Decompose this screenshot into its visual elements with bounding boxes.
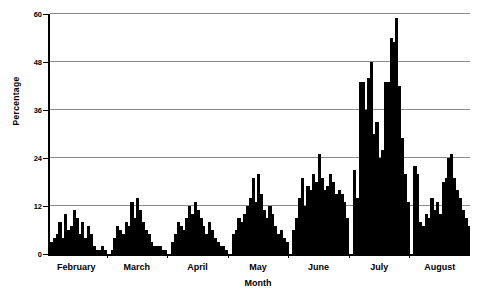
month-label: July — [370, 262, 388, 272]
month-label: April — [187, 262, 208, 272]
month-label: May — [249, 262, 267, 272]
bar-chart: Percentage Month 01224364860 FebruaryMar… — [0, 0, 479, 296]
bar — [346, 218, 349, 254]
bar — [285, 242, 288, 254]
x-axis-title: Month — [48, 278, 468, 288]
month-label: August — [424, 262, 455, 272]
gridline — [50, 109, 470, 110]
gridline — [50, 61, 470, 62]
y-tick-label: 24 — [12, 154, 42, 163]
gridline — [50, 157, 470, 158]
y-tick-label: 60 — [12, 10, 42, 19]
plot-area — [48, 14, 470, 256]
bar — [164, 250, 167, 254]
month-label: February — [57, 262, 96, 272]
month-label: March — [124, 262, 151, 272]
bar — [407, 202, 410, 254]
gridline — [50, 13, 470, 14]
bar — [225, 250, 228, 254]
y-tick-label: 0 — [12, 250, 42, 259]
bar — [467, 226, 470, 254]
y-tick-label: 12 — [12, 202, 42, 211]
bar — [104, 250, 107, 254]
y-tick-label: 48 — [12, 58, 42, 67]
month-label: June — [308, 262, 329, 272]
y-tick-label: 36 — [12, 106, 42, 115]
